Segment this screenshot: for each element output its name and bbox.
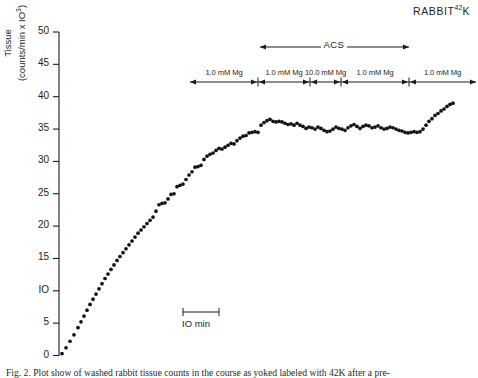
segment-arrowhead-right	[311, 79, 317, 84]
data-point	[199, 163, 203, 167]
scale-bar-label: IO min	[182, 318, 210, 329]
data-point	[235, 139, 239, 143]
data-point	[172, 192, 176, 196]
data-point	[79, 320, 83, 324]
data-point	[94, 292, 98, 296]
data-point	[190, 170, 194, 174]
data-point	[82, 314, 86, 318]
treatment-bar-arrowhead-left	[190, 79, 196, 84]
segment-arrowhead-left	[303, 79, 309, 84]
treatment-segment-label: 1.0 mM Mg	[424, 68, 461, 77]
data-point	[232, 142, 236, 146]
treatment-bar-arrowhead-right	[470, 79, 476, 84]
annotation-group	[183, 44, 476, 316]
figure-title-text: RABBIT	[413, 5, 455, 17]
segment-arrowhead-right	[410, 79, 416, 84]
data-point	[427, 119, 431, 123]
figure-title: RABBIT42K	[413, 4, 470, 17]
data-point	[97, 287, 101, 291]
isotope-symbol: K	[462, 5, 470, 17]
y-axis	[53, 32, 59, 356]
data-point	[85, 308, 89, 312]
data-point	[436, 112, 440, 116]
acs-arrowhead-left	[260, 44, 266, 49]
y-tick-label: 40	[23, 90, 49, 101]
segment-arrowhead-left	[402, 79, 408, 84]
data-point	[106, 272, 110, 276]
data-point	[68, 339, 72, 343]
segment-arrowhead-left	[251, 79, 257, 84]
data-point-group	[60, 101, 455, 355]
data-point	[136, 231, 140, 235]
data-point	[88, 303, 92, 307]
data-point	[148, 218, 152, 222]
data-point	[451, 101, 455, 105]
y-tick-label: 15	[23, 251, 49, 262]
data-point	[442, 107, 446, 111]
y-axis-label-line2-post: )	[16, 5, 27, 8]
treatment-segment-label: 1.0 mM Mg	[265, 68, 302, 77]
y-tick-label: IO	[23, 284, 49, 295]
segment-arrowhead-right	[342, 79, 348, 84]
data-point	[256, 130, 260, 134]
data-point	[109, 268, 113, 272]
data-point	[187, 173, 191, 177]
data-point	[421, 127, 425, 131]
data-point	[76, 326, 80, 330]
y-tick-label: 25	[23, 187, 49, 198]
data-point	[121, 251, 125, 255]
data-point	[72, 333, 76, 337]
y-axis-label-exponent: 3	[15, 8, 22, 12]
y-axis-label-line2-pre: (counts/min x IO	[16, 12, 27, 81]
data-point	[91, 297, 95, 301]
data-point	[103, 277, 107, 281]
acs-arrowhead-right	[403, 44, 409, 49]
treatment-bar-arrow	[190, 78, 476, 87]
figure-caption: Fig. 2. Plot show of washed rabbit tissu…	[6, 367, 476, 378]
data-point	[139, 228, 143, 232]
data-point	[133, 235, 137, 239]
y-tick-label: 20	[23, 219, 49, 230]
y-tick-label: 50	[23, 25, 49, 36]
data-point	[211, 151, 215, 155]
data-point	[130, 239, 134, 243]
data-point	[100, 282, 104, 286]
y-axis-label-line1: Tissue	[2, 0, 13, 118]
data-point	[151, 215, 155, 219]
data-point	[145, 222, 149, 226]
data-point	[244, 134, 248, 138]
data-point	[127, 243, 131, 247]
acs-label: ACS	[321, 39, 348, 50]
data-point	[430, 117, 434, 121]
data-point	[142, 225, 146, 229]
data-point	[181, 182, 185, 186]
y-tick-label: 45	[23, 57, 49, 68]
data-point	[154, 209, 158, 213]
y-tick-label: 35	[23, 122, 49, 133]
data-point	[115, 259, 119, 263]
data-point	[202, 158, 206, 162]
data-point	[184, 178, 188, 182]
data-point	[118, 255, 122, 259]
data-point	[112, 263, 116, 267]
data-point	[166, 197, 170, 201]
data-point	[424, 123, 428, 127]
y-axis-tick-marks	[53, 32, 59, 356]
data-point	[163, 201, 167, 205]
segment-arrowhead-left	[334, 79, 340, 84]
treatment-segment-label: 1.0 mM Mg	[205, 68, 242, 77]
treatment-segment-label: 10.0 mM Mg	[305, 68, 346, 77]
y-tick-label: 0	[23, 349, 49, 360]
segment-arrowhead-right	[259, 79, 265, 84]
y-tick-label: 30	[23, 154, 49, 165]
treatment-segment-label: 1.0 mM Mg	[356, 68, 393, 77]
data-point	[343, 128, 347, 132]
y-tick-label: 5	[23, 316, 49, 327]
data-point	[60, 352, 64, 356]
data-point	[64, 346, 68, 350]
scale-bar	[183, 308, 219, 316]
data-point	[259, 123, 263, 127]
data-point	[124, 247, 128, 251]
